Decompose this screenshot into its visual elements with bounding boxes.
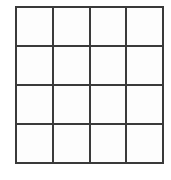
grid-cell-r1-c3 xyxy=(91,8,128,47)
grid-cell-r4-c3 xyxy=(91,125,128,164)
grid-cell-r2-c4 xyxy=(127,47,164,86)
grid-cell-r2-c1 xyxy=(17,47,54,86)
grid-diagram xyxy=(15,6,164,164)
grid-cell-r4-c4 xyxy=(127,125,164,164)
grid-cell-r4-c1 xyxy=(17,125,54,164)
grid-cell-r1-c4 xyxy=(127,8,164,47)
grid-cell-r3-c3 xyxy=(91,86,128,125)
grid-cell-r2-c2 xyxy=(54,47,91,86)
grid-cell-r3-c1 xyxy=(17,86,54,125)
grid-cell-r3-c2 xyxy=(54,86,91,125)
grid-cell-r1-c1 xyxy=(17,8,54,47)
grid-cell-r3-c4 xyxy=(127,86,164,125)
grid-cell-r1-c2 xyxy=(54,8,91,47)
grid-cell-r2-c3 xyxy=(91,47,128,86)
grid-cell-r4-c2 xyxy=(54,125,91,164)
